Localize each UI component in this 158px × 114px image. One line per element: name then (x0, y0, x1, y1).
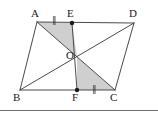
tick-FC: ∥ (92, 85, 96, 94)
vertex-label-a: A (31, 8, 39, 19)
geometry-figure: AEDOBFC ∥∥ (0, 0, 158, 114)
vertex-label-c: C (110, 92, 117, 103)
vertex-label-d: D (129, 8, 137, 19)
vertex-label-b: B (13, 92, 20, 103)
tick-AE: ∥ (52, 16, 56, 25)
vertex-label-e: E (67, 8, 74, 19)
vertex-dot-e (70, 21, 74, 25)
side-AB (20, 22, 37, 90)
vertex-label-f: F (72, 92, 78, 103)
vertex-label-o: O (66, 50, 74, 61)
bottom-divider (0, 110, 158, 111)
